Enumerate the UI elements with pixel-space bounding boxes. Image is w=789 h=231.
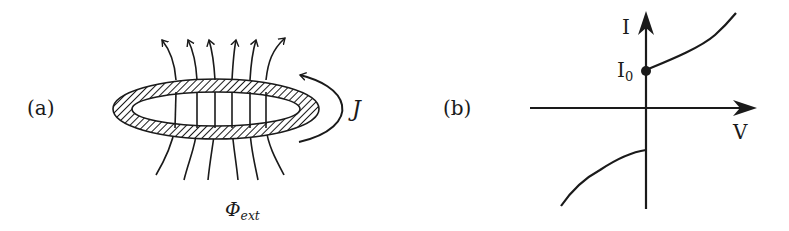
critical-current-label: I0	[617, 60, 633, 83]
flux-label: Φext	[225, 200, 260, 222]
x-axis-label: V	[733, 122, 747, 142]
y-axis-label: I	[622, 17, 630, 37]
current-label: J	[352, 98, 361, 120]
field-lines-inner	[175, 92, 266, 128]
diagram-graphics	[0, 0, 789, 231]
critical-current-point	[641, 66, 651, 76]
critical-current-symbol: I	[617, 58, 625, 82]
iv-curves	[561, 13, 736, 206]
figure: (a) J Φext (b) I V I0	[0, 0, 789, 231]
critical-current-subscript: 0	[625, 69, 633, 84]
field-lines-upper	[162, 38, 285, 80]
panel-a-label: (a)	[27, 98, 55, 118]
flux-subscript: ext	[241, 209, 260, 223]
panel-b-label: (b)	[443, 98, 471, 118]
iv-axes	[530, 18, 752, 209]
flux-symbol: Φ	[225, 198, 241, 220]
superconducting-ring	[113, 79, 319, 139]
